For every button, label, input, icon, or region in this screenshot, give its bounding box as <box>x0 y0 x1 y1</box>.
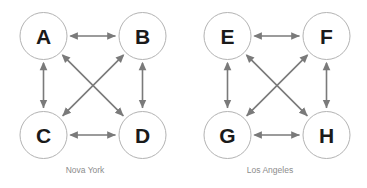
node-label-f: F <box>320 25 333 48</box>
node-label-d: D <box>135 124 150 147</box>
diagram-root: ABCDEFGH Nova YorkLos Angeles <box>0 0 367 188</box>
node-label-e: E <box>220 25 234 48</box>
captions-layer: Nova YorkLos Angeles <box>66 165 294 175</box>
node-g[interactable]: G <box>204 112 251 159</box>
node-label-g: G <box>219 124 235 147</box>
network-diagram-canvas: ABCDEFGH Nova YorkLos Angeles <box>0 0 367 188</box>
node-label-c: C <box>36 124 51 147</box>
node-label-a: A <box>36 25 51 48</box>
node-f[interactable]: F <box>303 13 350 60</box>
node-e[interactable]: E <box>204 13 251 60</box>
graph-caption-graph-nova-york: Nova York <box>66 165 105 175</box>
node-b[interactable]: B <box>119 13 166 60</box>
node-c[interactable]: C <box>20 112 67 159</box>
nodes-layer: ABCDEFGH <box>20 13 350 159</box>
edges-layer <box>44 36 327 135</box>
graph-caption-graph-los-angeles: Los Angeles <box>247 165 293 175</box>
node-d[interactable]: D <box>119 112 166 159</box>
node-h[interactable]: H <box>303 112 350 159</box>
node-label-b: B <box>135 25 150 48</box>
node-a[interactable]: A <box>20 13 67 60</box>
node-label-h: H <box>319 124 334 147</box>
